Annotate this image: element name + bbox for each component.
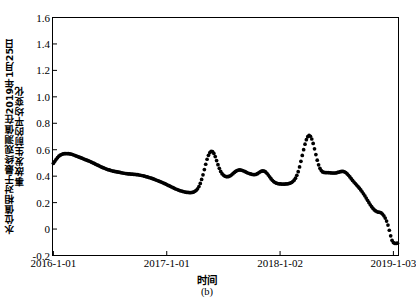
x-axis-tick-label: 2018-1-02 bbox=[257, 258, 303, 269]
x-axis-title: 时间 bbox=[0, 272, 414, 287]
x-axis-tick-label: 2016-1-01 bbox=[30, 258, 76, 269]
data-series-water-level bbox=[52, 134, 400, 246]
x-axis-tick-label: 2017-1-01 bbox=[144, 258, 190, 269]
axis-tick-marks bbox=[53, 18, 394, 256]
axes-frame bbox=[53, 18, 399, 256]
x-axis-tick-label: 2019-1-03 bbox=[370, 258, 416, 269]
figure-caption: (b) bbox=[0, 286, 414, 297]
